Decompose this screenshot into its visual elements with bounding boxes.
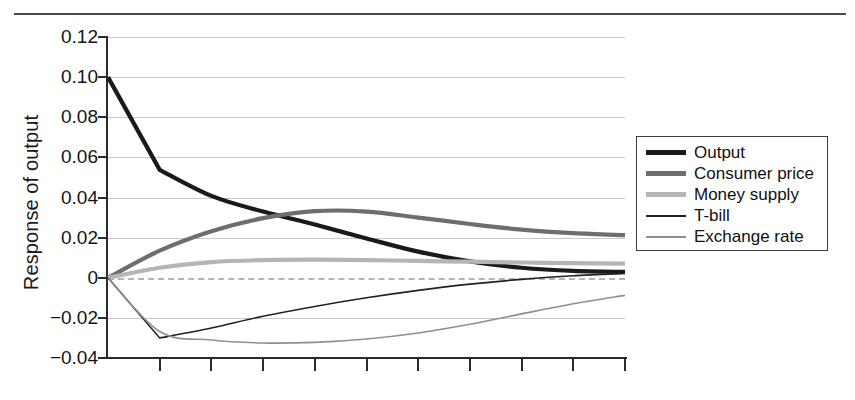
legend-line-swatch-icon xyxy=(646,171,686,175)
y-axis-tick-label: 0 xyxy=(12,268,98,287)
y-axis-tick-label: 0.10 xyxy=(12,67,98,86)
x-axis-tick-mark xyxy=(469,359,471,371)
legend-item: Consumer price xyxy=(637,163,827,184)
x-axis-tick-mark xyxy=(262,359,264,371)
y-axis-tick-labels: 0.120.100.080.060.040.020−0.02−0.04 xyxy=(0,0,98,400)
legend-item: T-bill xyxy=(637,205,827,226)
y-axis-tick-mark xyxy=(98,156,108,158)
legend-item-label: Money supply xyxy=(694,186,799,203)
y-axis-tick-label: 0.06 xyxy=(12,147,98,166)
y-axis-tick-label: −0.04 xyxy=(12,348,98,367)
x-axis-tick-mark xyxy=(314,359,316,371)
series-line-output xyxy=(108,77,625,272)
y-axis-tick-mark xyxy=(98,116,108,118)
x-axis-tick-mark xyxy=(159,359,161,371)
x-axis-tick-mark xyxy=(366,359,368,371)
y-axis-tick-label: 0.02 xyxy=(12,228,98,247)
series-line-t-bill xyxy=(108,274,625,338)
legend-item: Money supply xyxy=(637,184,827,205)
y-axis-tick-mark xyxy=(98,76,108,78)
top-horizontal-rule xyxy=(14,13,846,15)
x-axis-tick-mark xyxy=(210,359,212,371)
chart-legend: OutputConsumer priceMoney supplyT-billEx… xyxy=(636,136,828,251)
y-axis-tick-mark xyxy=(98,317,108,319)
legend-item-label: T-bill xyxy=(694,207,730,224)
y-axis-tick-mark xyxy=(98,237,108,239)
legend-line-swatch-icon xyxy=(646,215,686,217)
legend-item: Exchange rate xyxy=(637,226,827,247)
y-axis-tick-label: 0.08 xyxy=(12,107,98,126)
y-axis-tick-label: 0.04 xyxy=(12,188,98,207)
x-axis-tick-mark xyxy=(572,359,574,371)
x-axis-tick-mark xyxy=(417,359,419,371)
y-axis-tick-mark xyxy=(98,36,108,38)
legend-item-label: Exchange rate xyxy=(694,228,804,245)
y-axis-tick-label: −0.02 xyxy=(12,308,98,327)
figure-container: Response of output 0.120.100.080.060.040… xyxy=(0,0,855,400)
y-axis-tick-mark xyxy=(98,197,108,199)
legend-item-label: Output xyxy=(694,144,745,161)
legend-item: Output xyxy=(637,142,827,163)
legend-line-swatch-icon xyxy=(646,192,686,196)
chart-curves xyxy=(108,37,625,358)
y-axis-tick-mark xyxy=(98,277,108,279)
x-axis-tick-mark xyxy=(521,359,523,371)
legend-item-label: Consumer price xyxy=(694,165,814,182)
legend-line-swatch-icon xyxy=(646,150,686,154)
legend-line-swatch-icon xyxy=(646,236,686,238)
y-axis-tick-mark xyxy=(98,357,108,359)
y-axis-tick-label: 0.12 xyxy=(12,27,98,46)
x-axis-tick-mark xyxy=(624,359,626,371)
